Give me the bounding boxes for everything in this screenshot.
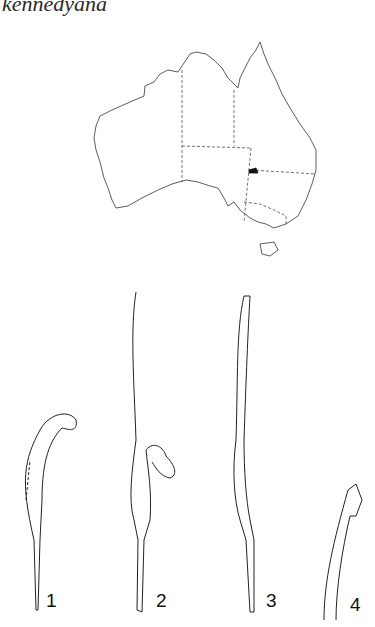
- figure-3: [234, 296, 254, 612]
- figure-label-1: 1: [46, 590, 57, 612]
- species-title: kennedyana: [2, 0, 107, 17]
- australia-distribution-map: [90, 38, 330, 258]
- figure-label-3: 3: [266, 590, 277, 612]
- coastline: [94, 42, 316, 228]
- distribution-highlight: [249, 168, 258, 173]
- illustration-figures: [0, 280, 375, 627]
- tasmania: [260, 242, 278, 256]
- figure-label-4: 4: [350, 594, 361, 616]
- figure-2: [131, 292, 175, 612]
- figure-label-2: 2: [156, 590, 167, 612]
- figure-1: [25, 414, 76, 610]
